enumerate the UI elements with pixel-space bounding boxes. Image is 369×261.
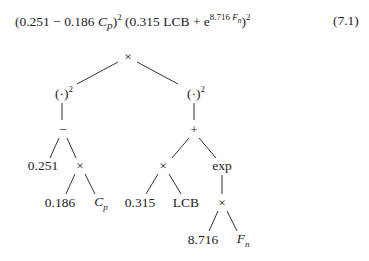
edge <box>77 62 118 84</box>
edge <box>67 138 76 158</box>
edge <box>50 138 59 158</box>
edge <box>66 174 75 194</box>
edge <box>209 211 218 231</box>
node-right-square: (·)2 <box>187 84 205 102</box>
node-times-left: × <box>76 158 84 174</box>
node-const-8716: 8.716 <box>188 232 218 248</box>
node-cp: Cp <box>94 194 108 212</box>
node-root-times: × <box>124 49 132 65</box>
node-const-0186: 0.186 <box>45 195 75 211</box>
node-times-exp: × <box>218 195 226 211</box>
node-const-0251: 0.251 <box>28 158 58 174</box>
node-times-mid: × <box>159 158 167 174</box>
node-fn: Fn <box>237 231 250 249</box>
tree-edges <box>0 0 369 261</box>
edge <box>85 174 95 194</box>
node-const-0315: 0.315 <box>125 195 155 211</box>
edge <box>169 174 181 194</box>
edge <box>146 174 158 194</box>
node-exp: exp <box>212 158 232 174</box>
edge <box>227 211 237 231</box>
edge <box>199 138 216 158</box>
node-plus: + <box>190 122 198 138</box>
edge <box>137 62 178 84</box>
node-left-square: (·)2 <box>55 84 73 102</box>
node-lcb: LCB <box>173 195 199 211</box>
node-minus: − <box>59 122 67 138</box>
edge <box>172 138 189 158</box>
